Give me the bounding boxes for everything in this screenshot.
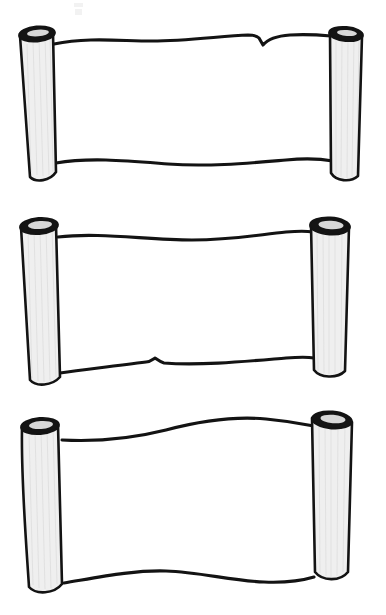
parchment-sheet <box>54 35 333 167</box>
right-roller-body <box>311 225 349 377</box>
scroll-middle: Blank scroll banner 2 <box>0 205 386 395</box>
illustration-canvas: Blank scroll banner 1 <box>0 0 386 615</box>
parchment-sheet <box>57 231 314 375</box>
scroll-bottom: Blank scroll banner 3 <box>0 400 386 615</box>
left-roller <box>20 417 62 593</box>
right-roller-body <box>312 418 352 579</box>
right-roller <box>310 216 351 376</box>
parchment-body <box>57 232 314 375</box>
left-roller <box>18 25 56 180</box>
left-roller <box>19 217 60 385</box>
scroll-top: Blank scroll banner 1 <box>0 0 386 205</box>
parchment-sheet <box>62 418 314 584</box>
right-roller <box>311 410 352 579</box>
right-roller <box>328 26 363 181</box>
parchment-body <box>54 36 332 166</box>
parchment-body <box>62 421 314 584</box>
